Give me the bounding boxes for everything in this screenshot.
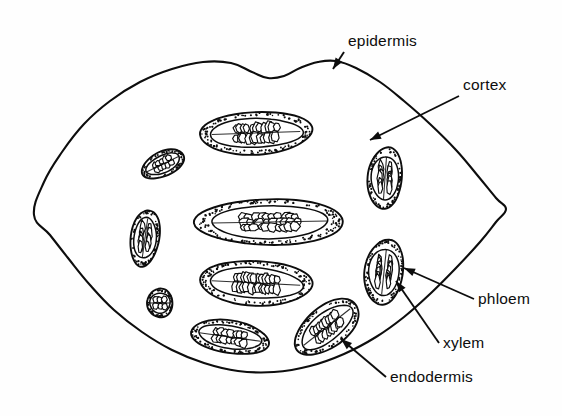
sheath-stipple-dot: [151, 310, 153, 312]
sheath-stipple-dot: [309, 133, 311, 135]
sheath-stipple-dot: [368, 289, 370, 291]
sheath-stipple-dot: [199, 341, 201, 343]
sheath-stipple-dot: [255, 200, 257, 202]
sheath-stipple-dot: [266, 114, 268, 116]
sheath-stipple-dot: [234, 352, 236, 354]
sheath-stipple-dot: [244, 323, 246, 325]
sheath-stipple-dot: [328, 345, 330, 347]
sheath-stipple-dot: [382, 207, 384, 209]
sheath-stipple-dot: [276, 265, 278, 267]
sheath-stipple-dot: [176, 167, 178, 169]
sheath-stipple-dot: [205, 284, 207, 286]
sheath-stipple-dot: [307, 127, 309, 129]
sheath-stipple-dot: [216, 237, 218, 239]
sheath-stipple-dot: [207, 139, 209, 141]
sheath-stipple-dot: [231, 321, 233, 323]
sheath-stipple-dot: [262, 302, 264, 304]
sheath-stipple-dot: [194, 330, 196, 332]
sheath-stipple-dot: [331, 223, 333, 225]
phloem-cell: [378, 182, 383, 193]
sheath-stipple-dot: [210, 140, 212, 142]
sheath-stipple-dot: [143, 213, 145, 215]
sheath-stipple-dot: [257, 262, 259, 264]
sheath-stipple-dot: [197, 326, 199, 328]
sheath-stipple-dot: [277, 114, 279, 116]
sheath-stipple-dot: [348, 300, 350, 302]
sheath-stipple-dot: [346, 330, 348, 332]
sheath-stipple-dot: [255, 350, 257, 352]
sheath-stipple-dot: [389, 148, 391, 150]
sheath-stipple-dot: [284, 201, 286, 203]
sheath-stipple-dot: [132, 237, 134, 239]
stem-cross-section-diagram: epidermiscortexphloemxylemendodermis: [0, 0, 562, 416]
sheath-stipple-dot: [223, 294, 225, 296]
sheath-stipple-dot: [386, 205, 388, 207]
sheath-stipple-dot: [249, 327, 251, 329]
sheath-stipple-dot: [249, 350, 251, 352]
sheath-stipple-dot: [257, 332, 259, 334]
sheath-stipple-dot: [304, 275, 306, 277]
sheath-stipple-dot: [306, 135, 308, 137]
sheath-stipple-dot: [303, 325, 305, 327]
sheath-stipple-dot: [214, 208, 216, 210]
sheath-stipple-dot: [240, 263, 242, 265]
sheath-stipple-dot: [155, 156, 157, 158]
sheath-stipple-dot: [395, 288, 397, 290]
sheath-stipple-dot: [221, 266, 223, 268]
sheath-stipple-dot: [180, 163, 182, 165]
sheath-stipple-dot: [379, 150, 381, 152]
sheath-stipple-dot: [370, 163, 372, 165]
sheath-stipple-dot: [208, 230, 210, 232]
sheath-stipple-dot: [266, 339, 268, 341]
sheath-stipple-dot: [163, 151, 165, 153]
sheath-stipple-dot: [211, 346, 213, 348]
sheath-stipple-dot: [170, 295, 172, 297]
sheath-stipple-dot: [234, 298, 236, 300]
sheath-stipple-dot: [369, 186, 371, 188]
sheath-stipple-dot: [396, 248, 398, 250]
sheath-stipple-dot: [280, 240, 282, 242]
sheath-stipple-dot: [202, 128, 204, 130]
sheath-stipple-dot: [276, 300, 278, 302]
sheath-stipple-dot: [368, 181, 370, 183]
sheath-stipple-dot: [322, 348, 324, 350]
sheath-stipple-dot: [366, 284, 368, 286]
sheath-stipple-dot: [306, 136, 308, 138]
sheath-stipple-dot: [259, 242, 261, 244]
sheath-stipple-dot: [330, 303, 332, 305]
sheath-stipple-dot: [375, 245, 377, 247]
sheath-stipple-dot: [288, 118, 290, 120]
sheath-stipple-dot: [259, 150, 261, 152]
sheath-stipple-dot: [306, 320, 308, 322]
sheath-stipple-dot: [221, 349, 223, 351]
sheath-stipple-dot: [174, 151, 176, 153]
sheath-stipple-dot: [179, 152, 181, 154]
sheath-stipple-dot: [207, 142, 209, 144]
sheath-stipple-dot: [335, 214, 337, 216]
sheath-stipple-dot: [156, 225, 158, 227]
sheath-stipple-dot: [234, 350, 236, 352]
sheath-stipple-dot: [333, 220, 335, 222]
sheath-stipple-dot: [197, 337, 199, 339]
sheath-stipple-dot: [370, 255, 372, 257]
sheath-stipple-dot: [211, 212, 213, 214]
sheath-stipple-dot: [203, 281, 205, 283]
sheath-stipple-dot: [290, 145, 292, 147]
sheath-stipple-dot: [365, 277, 367, 279]
sheath-stipple-dot: [237, 114, 239, 116]
sheath-stipple-dot: [385, 241, 387, 243]
sheath-stipple-dot: [149, 308, 151, 310]
sheath-stipple-dot: [338, 302, 340, 304]
sheath-stipple-dot: [243, 149, 245, 151]
sheath-stipple-dot: [303, 238, 305, 240]
sheath-stipple-dot: [401, 260, 403, 262]
sheath-stipple-dot: [236, 150, 238, 152]
sheath-stipple-dot: [133, 231, 135, 233]
sheath-stipple-dot: [161, 290, 163, 292]
sheath-stipple-dot: [304, 126, 306, 128]
sheath-stipple-dot: [245, 302, 247, 304]
sheath-stipple-dot: [251, 151, 253, 153]
sheath-stipple-dot: [281, 242, 283, 244]
sheath-stipple-dot: [201, 279, 203, 281]
sheath-stipple-dot: [398, 277, 400, 279]
